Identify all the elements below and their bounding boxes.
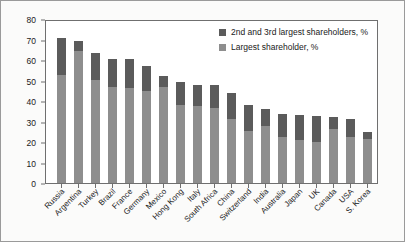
x-tick-mark [78,184,79,188]
x-tick-mark [231,184,232,188]
x-tick-mark [197,184,198,188]
bar-segment-largest-shareholder [159,87,168,183]
x-tick-mark [316,184,317,188]
chart-legend: 2nd and 3rd largest shareholders, %Large… [219,27,368,52]
bar-segment-second-third-shareholders [329,117,338,129]
bar-segment-second-third-shareholders [261,109,270,126]
bar-segment-second-third-shareholders [91,53,100,79]
bar-segment-largest-shareholder [142,91,151,183]
bar-segment-largest-shareholder [227,119,236,183]
bar-hong-kong [176,82,185,183]
bar-france [125,59,134,183]
bar-s-korea [363,132,372,183]
x-tick-mark [265,184,266,188]
bar-segment-second-third-shareholders [346,119,355,137]
legend-label: Largest shareholder, % [231,42,318,52]
bar-india [261,109,270,183]
bar-segment-second-third-shareholders [363,132,372,139]
x-tick-mark [180,184,181,188]
x-tick-mark [248,184,249,188]
y-tick-label: 40 [27,97,36,107]
x-tick-mark [129,184,130,188]
bar-brazil [108,59,117,183]
x-tick-label: Japan [282,187,304,209]
bar-segment-second-third-shareholders [227,93,236,120]
x-tick-mark [299,184,300,188]
x-tick-mark [214,184,215,188]
x-tick-mark [61,184,62,188]
bar-segment-second-third-shareholders [295,115,304,140]
bar-mexico [159,76,168,183]
bar-segment-largest-shareholder [210,108,219,183]
bar-japan [295,115,304,183]
x-tick-mark [95,184,96,188]
chart-figure: 01020304050607080 RussiaArgentinaTurkeyB… [0,0,405,242]
x-tick-mark [282,184,283,188]
y-tick-label: 0 [31,179,36,189]
bar-segment-second-third-shareholders [210,85,219,108]
bar-segment-largest-shareholder [176,105,185,183]
y-tick-label: 30 [27,118,36,128]
bar-segment-second-third-shareholders [142,66,151,91]
legend-item: 2nd and 3rd largest shareholders, % [219,27,368,37]
bar-segment-largest-shareholder [91,80,100,183]
bar-segment-second-third-shareholders [312,116,321,141]
y-tick-label: 50 [27,77,36,87]
y-tick-label: 70 [27,36,36,46]
bar-germany [142,66,151,183]
bar-usa [346,119,355,183]
bar-segment-second-third-shareholders [125,59,134,88]
y-tick-label: 80 [27,15,36,25]
bar-china [227,93,236,183]
legend-swatch-icon [219,44,226,51]
y-tick-label: 60 [27,56,36,66]
bar-uk [312,116,321,183]
x-tick-mark [367,184,368,188]
bar-segment-second-third-shareholders [74,41,83,51]
bar-segment-largest-shareholder [57,75,66,183]
bar-canada [329,117,338,183]
bar-segment-largest-shareholder [244,131,253,183]
x-tick-mark [112,184,113,188]
y-tick-label: 20 [27,138,36,148]
bar-segment-largest-shareholder [312,142,321,183]
bar-segment-largest-shareholder [363,139,372,183]
bar-turkey [91,53,100,183]
x-tick-mark [350,184,351,188]
bar-australia [278,114,287,183]
bar-segment-largest-shareholder [193,106,202,183]
bar-segment-second-third-shareholders [193,85,202,107]
bar-segment-largest-shareholder [329,129,338,183]
bar-segment-largest-shareholder [278,137,287,183]
bar-russia [57,38,66,183]
bar-segment-largest-shareholder [108,87,117,183]
bar-argentina [74,41,83,183]
bar-switzerland [244,105,253,183]
bar-segment-largest-shareholder [295,140,304,183]
legend-item: Largest shareholder, % [219,42,368,52]
bar-segment-largest-shareholder [74,51,83,183]
legend-label: 2nd and 3rd largest shareholders, % [231,27,368,37]
bar-segment-largest-shareholder [346,137,355,183]
bar-segment-second-third-shareholders [159,76,168,87]
bar-segment-second-third-shareholders [108,59,117,87]
x-tick-mark [333,184,334,188]
bar-segment-second-third-shareholders [57,38,66,75]
bar-segment-second-third-shareholders [278,114,287,137]
x-tick-mark [163,184,164,188]
bar-segment-second-third-shareholders [176,82,185,105]
x-tick-mark [146,184,147,188]
bar-south-africa [210,85,219,183]
bar-segment-second-third-shareholders [244,105,253,130]
y-tick-label: 10 [27,159,36,169]
y-axis: 01020304050607080 [1,20,41,184]
x-axis: RussiaArgentinaTurkeyBrazilFranceGermany… [45,187,378,242]
bar-italy [193,85,202,183]
legend-swatch-icon [219,29,226,36]
bar-segment-largest-shareholder [261,126,270,183]
bar-segment-largest-shareholder [125,88,134,183]
